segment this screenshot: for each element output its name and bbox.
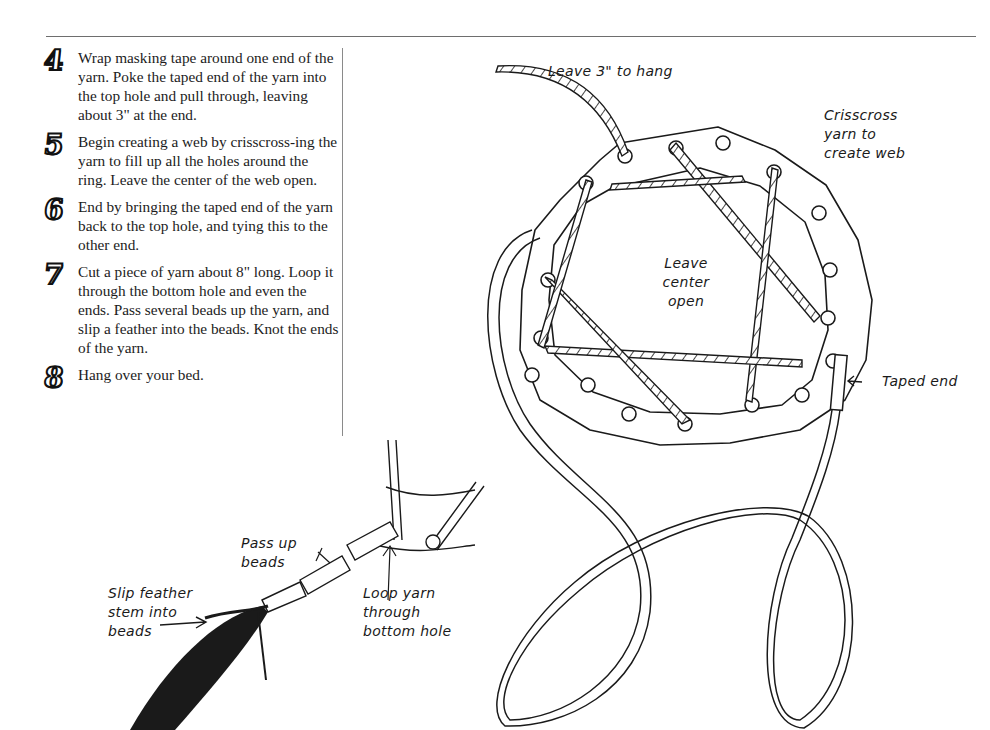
yarn-tie-end [258,612,266,680]
label-line: through [363,603,451,622]
label-pass-beads: Pass up beads [241,534,297,572]
label-slip-feather: Slip feather stem into beads [108,584,192,641]
label-line: stem into [108,603,192,622]
label-leave-hang: Leave 3" to hang [548,62,673,81]
label-line: open [656,292,716,311]
label-line: Crisscross [824,106,905,125]
label-taped-end: Taped end [882,372,958,391]
label-line: Pass up [241,534,297,553]
label-line: create web [824,144,905,163]
label-line: center [656,273,716,292]
label-crisscross: Crisscross yarn to create web [824,106,905,163]
label-line: beads [108,622,192,641]
label-line: Slip feather [108,584,192,603]
label-center-open: Leave center open [656,254,716,311]
pass-beads-arrow [316,548,330,563]
label-line: Leave [656,254,716,273]
label-line: bottom hole [363,622,451,641]
label-loop-yarn: Loop yarn through bottom hole [363,584,451,641]
label-line: Loop yarn [363,584,451,603]
label-line: yarn to [824,125,905,144]
taped-end-arrow [848,376,862,386]
label-line: beads [241,553,297,572]
